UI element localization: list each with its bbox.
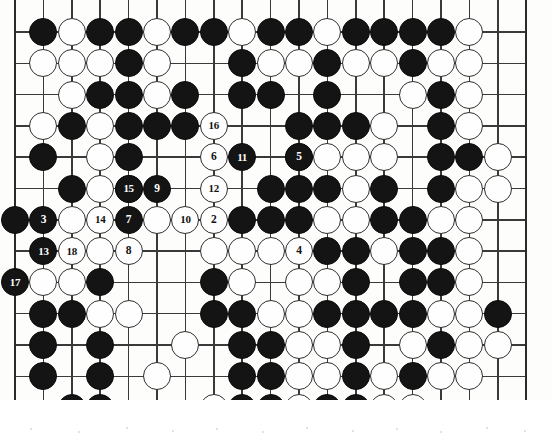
black-stone[interactable] <box>285 18 313 46</box>
white-stone[interactable] <box>455 362 483 390</box>
black-stone[interactable] <box>370 300 398 328</box>
black-stone[interactable] <box>399 18 427 46</box>
white-stone[interactable] <box>86 175 114 203</box>
black-stone[interactable] <box>171 81 199 109</box>
white-stone[interactable] <box>370 49 398 77</box>
black-stone[interactable] <box>257 206 285 234</box>
black-stone[interactable] <box>313 237 341 265</box>
black-stone[interactable] <box>427 331 455 359</box>
white-stone[interactable] <box>484 175 512 203</box>
move-stone-18[interactable]: 18 <box>58 237 86 265</box>
white-stone[interactable] <box>370 237 398 265</box>
white-stone[interactable] <box>342 175 370 203</box>
black-stone[interactable] <box>370 175 398 203</box>
white-stone[interactable] <box>285 362 313 390</box>
white-stone[interactable] <box>484 143 512 171</box>
black-stone[interactable] <box>228 81 256 109</box>
move-stone-16[interactable]: 16 <box>200 112 228 140</box>
white-stone[interactable] <box>257 237 285 265</box>
black-stone[interactable] <box>257 362 285 390</box>
black-stone[interactable] <box>86 81 114 109</box>
black-stone[interactable] <box>257 81 285 109</box>
white-stone[interactable] <box>29 49 57 77</box>
white-stone[interactable] <box>86 143 114 171</box>
black-stone[interactable] <box>455 143 483 171</box>
black-stone[interactable] <box>228 362 256 390</box>
black-stone[interactable] <box>342 362 370 390</box>
black-stone[interactable] <box>200 268 228 296</box>
go-board[interactable]: 23456789101112131415161718 <box>0 0 552 400</box>
black-stone[interactable] <box>171 112 199 140</box>
black-stone[interactable] <box>399 237 427 265</box>
white-stone[interactable] <box>285 49 313 77</box>
white-stone[interactable] <box>313 268 341 296</box>
black-stone[interactable] <box>29 143 57 171</box>
white-stone[interactable] <box>86 112 114 140</box>
black-stone[interactable] <box>29 362 57 390</box>
white-stone[interactable] <box>143 206 171 234</box>
white-stone[interactable] <box>228 237 256 265</box>
black-stone[interactable] <box>342 237 370 265</box>
white-stone[interactable] <box>313 331 341 359</box>
move-stone-12[interactable]: 12 <box>200 175 228 203</box>
black-stone[interactable] <box>427 18 455 46</box>
move-stone-13[interactable]: 13 <box>29 237 57 265</box>
black-stone[interactable] <box>342 112 370 140</box>
black-stone[interactable] <box>257 18 285 46</box>
black-stone[interactable] <box>313 112 341 140</box>
black-stone[interactable] <box>58 112 86 140</box>
move-stone-14[interactable]: 14 <box>86 206 114 234</box>
white-stone[interactable] <box>143 81 171 109</box>
black-stone[interactable] <box>399 49 427 77</box>
black-stone[interactable] <box>484 300 512 328</box>
white-stone[interactable] <box>58 268 86 296</box>
black-stone[interactable] <box>115 81 143 109</box>
black-stone[interactable] <box>228 49 256 77</box>
white-stone[interactable] <box>171 331 199 359</box>
white-stone[interactable] <box>285 331 313 359</box>
black-stone[interactable] <box>86 331 114 359</box>
white-stone[interactable] <box>484 331 512 359</box>
black-stone[interactable] <box>427 143 455 171</box>
white-stone[interactable] <box>427 206 455 234</box>
black-stone[interactable] <box>313 49 341 77</box>
black-stone[interactable] <box>86 362 114 390</box>
move-stone-7[interactable]: 7 <box>115 206 143 234</box>
white-stone[interactable] <box>58 81 86 109</box>
move-stone-15[interactable]: 15 <box>115 175 143 203</box>
white-stone[interactable] <box>29 268 57 296</box>
white-stone[interactable] <box>427 300 455 328</box>
white-stone[interactable] <box>427 49 455 77</box>
white-stone[interactable] <box>257 49 285 77</box>
black-stone[interactable] <box>228 206 256 234</box>
black-stone[interactable] <box>313 175 341 203</box>
black-stone[interactable] <box>342 18 370 46</box>
move-stone-17[interactable]: 17 <box>1 268 29 296</box>
white-stone[interactable] <box>58 49 86 77</box>
white-stone[interactable] <box>228 268 256 296</box>
black-stone[interactable] <box>228 300 256 328</box>
white-stone[interactable] <box>427 362 455 390</box>
black-stone[interactable] <box>86 18 114 46</box>
black-stone[interactable] <box>29 18 57 46</box>
black-stone[interactable] <box>58 300 86 328</box>
black-stone[interactable] <box>313 300 341 328</box>
white-stone[interactable] <box>228 18 256 46</box>
black-stone[interactable] <box>285 175 313 203</box>
white-stone[interactable] <box>58 206 86 234</box>
white-stone[interactable] <box>455 237 483 265</box>
black-stone[interactable] <box>200 300 228 328</box>
white-stone[interactable] <box>143 362 171 390</box>
white-stone[interactable] <box>455 300 483 328</box>
black-stone[interactable] <box>115 49 143 77</box>
black-stone[interactable] <box>58 175 86 203</box>
white-stone[interactable] <box>455 268 483 296</box>
black-stone[interactable] <box>370 18 398 46</box>
white-stone[interactable] <box>143 49 171 77</box>
black-stone[interactable] <box>285 206 313 234</box>
move-stone-2[interactable]: 2 <box>200 206 228 234</box>
white-stone[interactable] <box>455 206 483 234</box>
white-stone[interactable] <box>285 268 313 296</box>
white-stone[interactable] <box>29 112 57 140</box>
white-stone[interactable] <box>86 237 114 265</box>
